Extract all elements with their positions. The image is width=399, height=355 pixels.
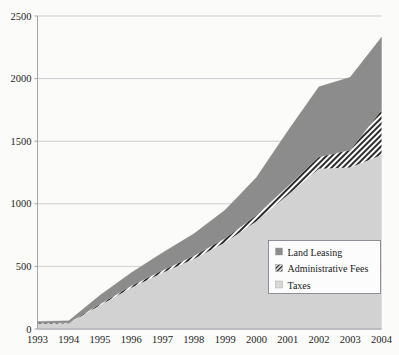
stacked-area-chart: 05001000150020002500 1993199419951996199… [0,0,399,355]
y-tick-label-0: 0 [26,324,31,335]
x-tick-label-1993: 1993 [27,334,48,345]
chart-canvas: 05001000150020002500 1993199419951996199… [0,0,399,355]
legend-marker-taxes [276,281,283,288]
legend-label-land-leasing: Land Leasing [288,247,343,258]
legend-marker-administrative-fees [276,265,283,272]
x-tick-label-1995: 1995 [90,334,111,345]
x-tick-label-1996: 1996 [121,334,142,345]
legend-label-taxes: Taxes [288,280,311,291]
x-tick-label-2001: 2001 [277,334,298,345]
y-tick-label-2500: 2500 [11,11,32,22]
x-tick-label-1994: 1994 [58,334,80,345]
legend-label-administrative-fees: Administrative Fees [288,263,369,274]
x-tick-label-1999: 1999 [215,334,236,345]
y-tick-label-1000: 1000 [11,198,32,209]
chart-legend: Land LeasingAdministrative FeesTaxes [269,241,381,294]
y-tick-label-2000: 2000 [11,73,32,84]
x-tick-label-2000: 2000 [246,334,267,345]
y-tick-label-1500: 1500 [11,136,32,147]
x-tick-label-1998: 1998 [183,334,204,345]
x-tick-label-2002: 2002 [308,334,329,345]
x-tick-label-2004: 2004 [371,334,393,345]
legend-marker-land-leasing [276,248,283,255]
y-tick-label-500: 500 [16,261,32,272]
x-tick-label-1997: 1997 [152,334,173,345]
x-tick-label-2003: 2003 [340,334,361,345]
